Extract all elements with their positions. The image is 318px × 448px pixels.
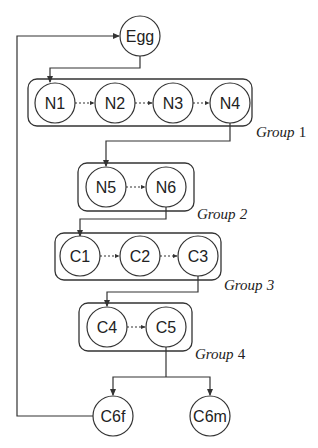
node-c2: C2 bbox=[120, 236, 160, 276]
node-n6: N6 bbox=[146, 167, 186, 207]
node-c4-label: C4 bbox=[97, 319, 118, 336]
node-c4: C4 bbox=[87, 307, 127, 347]
node-n2: N2 bbox=[95, 83, 135, 123]
node-c6f: C6f bbox=[93, 396, 133, 436]
node-c5: C5 bbox=[146, 307, 186, 347]
node-c5-label: C5 bbox=[156, 319, 177, 336]
node-n4: N4 bbox=[210, 83, 250, 123]
node-n5-label: N5 bbox=[96, 179, 117, 196]
node-c2-label: C2 bbox=[130, 248, 151, 265]
node-n1: N1 bbox=[35, 83, 75, 123]
node-c6f-label: C6f bbox=[101, 408, 126, 425]
node-c6m: C6m bbox=[190, 396, 230, 436]
edge-c5-c6f bbox=[113, 377, 166, 395]
life-cycle-diagram: Egg N1 N2 N3 N4 N5 N6 C1 C2 C3 C4 C bbox=[0, 0, 318, 448]
node-c1-label: C1 bbox=[70, 248, 91, 265]
node-c1: C1 bbox=[60, 236, 100, 276]
edge-c5-c6m bbox=[166, 377, 210, 395]
node-n3-label: N3 bbox=[163, 95, 184, 112]
node-c3: C3 bbox=[178, 236, 218, 276]
edge-n4-n5 bbox=[106, 123, 230, 166]
node-c6m-label: C6m bbox=[193, 408, 227, 425]
node-egg: Egg bbox=[120, 16, 160, 56]
node-n2-label: N2 bbox=[105, 95, 126, 112]
node-egg-label: Egg bbox=[126, 28, 154, 45]
group-3-label: Group3 bbox=[224, 277, 274, 293]
group-2-label: Group2 bbox=[197, 206, 248, 222]
edge-egg-n1 bbox=[50, 56, 140, 82]
node-n6-label: N6 bbox=[156, 179, 177, 196]
node-c3-label: C3 bbox=[188, 248, 209, 265]
node-n4-label: N4 bbox=[220, 95, 241, 112]
group-4-label: Group4 bbox=[195, 346, 246, 362]
group-1-label: Group1 bbox=[256, 124, 306, 140]
node-n1-label: N1 bbox=[45, 95, 66, 112]
node-n5: N5 bbox=[86, 167, 126, 207]
node-n3: N3 bbox=[153, 83, 193, 123]
